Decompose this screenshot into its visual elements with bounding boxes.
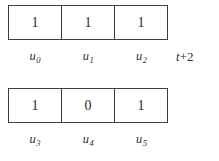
variable-label-subscript: 1 — [89, 55, 93, 65]
variable-label-subscript: 3 — [36, 138, 40, 148]
variable-label-subscript: 5 — [143, 138, 147, 148]
variable-label: u4 — [83, 133, 94, 146]
register-label-strip-top: u0 u1 u2 — [8, 45, 168, 67]
register-cell[interactable]: 1 — [9, 89, 62, 122]
register-box-top: 1 1 1 — [8, 5, 168, 40]
variable-label-subscript: 2 — [143, 55, 147, 65]
cell-value: 1 — [138, 99, 145, 113]
variable-label-base: u — [29, 132, 35, 146]
cell-value: 1 — [85, 16, 92, 30]
register-box-bottom: 1 0 1 — [8, 88, 168, 123]
label-slot: u4 — [61, 128, 114, 150]
cell-value: 1 — [32, 16, 39, 30]
variable-label: u0 — [29, 50, 40, 63]
variable-label: u5 — [136, 133, 147, 146]
variable-label-subscript: 4 — [89, 138, 93, 148]
diagram-canvas: 1 1 1 u0 u1 u2 t+2 — [0, 0, 219, 161]
register-cell[interactable]: 0 — [62, 89, 115, 122]
label-slot: u2 — [115, 45, 168, 67]
label-slot: u0 — [8, 45, 61, 67]
register-cell[interactable]: 1 — [115, 89, 167, 122]
variable-label: u1 — [83, 50, 94, 63]
time-offset: +2 — [180, 50, 194, 63]
variable-label-base: u — [136, 49, 142, 63]
register-label-strip-bottom: u3 u4 u5 — [8, 128, 168, 150]
label-slot: u3 — [8, 128, 61, 150]
label-slot: u5 — [115, 128, 168, 150]
variable-label-base: u — [29, 49, 35, 63]
register-cell[interactable]: 1 — [115, 6, 167, 39]
variable-label-subscript: 0 — [36, 55, 40, 65]
variable-label-base: u — [136, 132, 142, 146]
cell-value: 1 — [138, 16, 145, 30]
register-cell[interactable]: 1 — [9, 6, 62, 39]
cell-value: 1 — [32, 99, 39, 113]
variable-label: u3 — [29, 133, 40, 146]
time-step-annotation: t+2 — [176, 45, 193, 67]
register-cell[interactable]: 1 — [62, 6, 115, 39]
cell-value: 0 — [85, 99, 92, 113]
label-slot: u1 — [61, 45, 114, 67]
variable-label: u2 — [136, 50, 147, 63]
